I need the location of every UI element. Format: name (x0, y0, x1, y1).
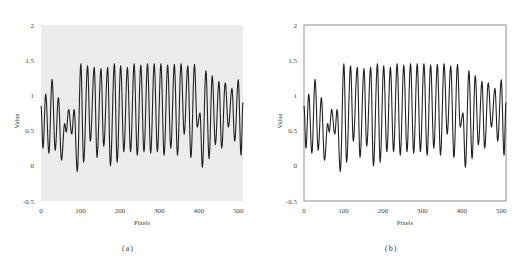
x-tick-label: 500 (233, 207, 244, 215)
y-tick-label: 0.5 (288, 127, 297, 135)
chart-a-svg: -0.500.511.520100200300400500PixelsValue (0, 0, 260, 272)
x-tick-label: 100 (75, 207, 86, 215)
y-tick-label: 0.5 (25, 127, 34, 135)
y-tick-label: 2 (31, 22, 35, 30)
x-tick-label: 0 (39, 207, 43, 215)
y-axis-label: Value (276, 113, 283, 128)
y-tick-label: 1.5 (25, 57, 34, 65)
y-tick-label: -0.5 (286, 198, 298, 206)
x-tick-label: 0 (302, 207, 306, 215)
chart-b-svg: -0.500.511.520100200300400500PixelsValue (260, 0, 520, 272)
chart-panel-a: -0.500.511.520100200300400500PixelsValue… (0, 0, 260, 272)
x-tick-label: 300 (154, 207, 165, 215)
y-tick-label: 1 (294, 92, 298, 100)
x-tick-label: 400 (194, 207, 205, 215)
x-tick-label: 200 (378, 207, 389, 215)
y-tick-label: 1.5 (288, 57, 297, 65)
y-tick-label: 0 (294, 162, 298, 170)
x-tick-label: 500 (496, 207, 507, 215)
y-tick-label: 0 (31, 162, 35, 170)
x-axis-label: Pixels (397, 219, 413, 226)
caption-a: (a) (122, 244, 134, 253)
x-axis-label: Pixels (134, 219, 150, 226)
x-tick-label: 200 (115, 207, 126, 215)
x-tick-label: 300 (417, 207, 428, 215)
caption-b: (b) (385, 244, 397, 253)
y-axis-label: Value (13, 113, 20, 128)
x-tick-label: 100 (338, 207, 349, 215)
y-tick-label: -0.5 (23, 198, 35, 206)
chart-panel-b: -0.500.511.520100200300400500PixelsValue… (260, 0, 520, 272)
y-tick-label: 1 (31, 92, 35, 100)
y-tick-label: 2 (294, 22, 298, 30)
x-tick-label: 400 (457, 207, 468, 215)
